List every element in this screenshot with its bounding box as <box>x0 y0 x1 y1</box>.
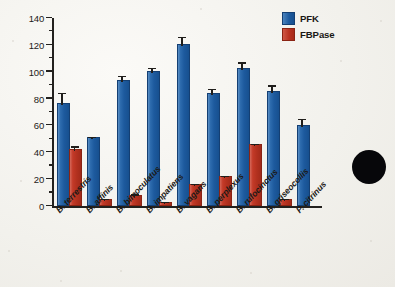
error-bar-cap <box>58 93 66 94</box>
scan-speckle <box>380 20 382 22</box>
error-bar-line <box>211 90 212 95</box>
y-tick-label: 80 <box>34 93 44 104</box>
x-axis-labels: B. terrestrisB. affinisB. bimoculatusB. … <box>52 208 342 286</box>
legend-label-fbpase: FBPase <box>300 29 335 40</box>
legend-swatch-fbpase <box>282 28 295 41</box>
bar-pfk[interactable] <box>57 103 70 206</box>
bar-pfk[interactable] <box>117 80 130 206</box>
bar-pfk[interactable] <box>267 91 280 206</box>
error-bar-line <box>61 94 62 105</box>
error-bar-line <box>164 203 165 204</box>
black-circle-marker <box>352 150 386 184</box>
scan-speckle <box>370 240 372 242</box>
y-axis-title: Enzyme activity (units g⁻¹) <box>14 0 25 18</box>
error-bar-line <box>151 69 152 73</box>
error-bar-cap <box>221 176 229 177</box>
legend: PFK FBPase <box>282 12 335 41</box>
error-bar-cap <box>298 119 306 120</box>
error-bar-cap <box>268 85 276 86</box>
y-tick-label: 60 <box>34 120 44 131</box>
error-bar-line <box>301 120 302 127</box>
error-bar-line <box>121 77 122 82</box>
error-bar-cap <box>251 144 259 145</box>
scan-speckle <box>200 8 202 10</box>
legend-label-pfk: PFK <box>300 13 319 24</box>
error-bar-line <box>91 138 92 139</box>
error-bar-cap <box>238 62 246 63</box>
error-bar-line <box>181 38 182 46</box>
scan-speckle <box>340 60 342 62</box>
scan-speckle <box>60 280 62 282</box>
scan-speckle <box>20 180 22 182</box>
error-bar-line <box>271 87 272 94</box>
error-bar-line <box>254 145 255 146</box>
error-bar-cap <box>71 146 79 147</box>
y-tick-label: 120 <box>29 39 44 50</box>
error-bar-cap <box>118 76 126 77</box>
y-tick-label: 40 <box>34 147 44 158</box>
error-bar-cap <box>208 89 216 90</box>
legend-item-pfk[interactable]: PFK <box>282 12 335 25</box>
plot-area: 020406080100120140 <box>52 18 322 206</box>
bar-pfk[interactable] <box>147 71 160 206</box>
bar-pfk[interactable] <box>207 93 220 206</box>
scan-speckle <box>12 40 14 42</box>
error-bar-cap <box>178 37 186 38</box>
error-bar-line <box>241 64 242 71</box>
y-tick-label: 100 <box>29 66 44 77</box>
legend-swatch-pfk <box>282 12 295 25</box>
error-bar-line <box>74 148 75 151</box>
legend-item-fbpase[interactable]: FBPase <box>282 28 335 41</box>
error-bar-cap <box>88 137 96 138</box>
bars-layer <box>52 18 322 206</box>
error-bar-cap <box>148 68 156 69</box>
y-tick-label: 0 <box>39 201 44 212</box>
y-tick-label: 140 <box>29 13 44 24</box>
y-tick-label: 20 <box>34 174 44 185</box>
error-bar-line <box>224 177 225 178</box>
scan-speckle <box>120 270 122 272</box>
scan-speckle <box>8 250 10 252</box>
figure-panel: 020406080100120140 Enzyme activity (unit… <box>0 0 395 287</box>
scan-speckle <box>250 272 252 274</box>
